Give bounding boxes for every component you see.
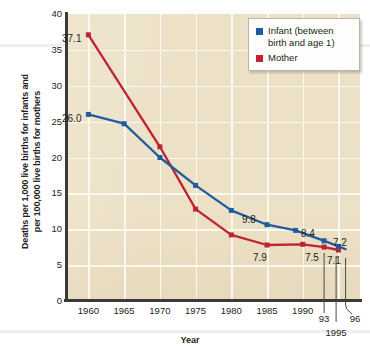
value-label-8-4: 8.4 xyxy=(301,228,315,239)
value-label-37-1: 37.1 xyxy=(62,33,81,44)
x-callout-label-1995: 1995 xyxy=(319,327,353,338)
x-tick-label-1980: 1980 xyxy=(211,305,251,316)
value-label-7-9: 7.9 xyxy=(253,252,267,263)
y-tick-label-35: 35 xyxy=(36,45,62,55)
y-axis-line xyxy=(65,12,68,301)
legend-label-mother: Mother xyxy=(268,52,298,64)
x-axis-line xyxy=(64,299,362,302)
y-tick-label-25: 25 xyxy=(36,117,62,127)
y-tick-label-10: 10 xyxy=(36,224,62,234)
value-label-7-5: 7.5 xyxy=(305,252,319,263)
y-tick-label-30: 30 xyxy=(36,81,62,91)
y-tick-label-0: 0 xyxy=(36,296,62,306)
value-label-26-0: 26.0 xyxy=(62,113,81,124)
legend-item-mother[interactable]: Mother xyxy=(256,52,354,64)
value-label-9-8: 9.8 xyxy=(242,214,256,225)
y-tick-label-40: 40 xyxy=(36,9,62,19)
value-label-7-2: 7.2 xyxy=(333,237,347,248)
y-tick-label-15: 15 xyxy=(36,188,62,198)
y-tick-label-20: 20 xyxy=(36,153,62,163)
y-axis-title-line-1: Deaths per 1,000 live births for infants… xyxy=(20,57,32,267)
x-axis-title: Year xyxy=(60,335,320,345)
y-tick-label-5: 5 xyxy=(36,260,62,270)
legend-item-infant[interactable]: Infant (between birth and age 1) xyxy=(256,25,354,48)
x-tick-label-1965: 1965 xyxy=(104,305,144,316)
x-tick-label-1970: 1970 xyxy=(140,305,180,316)
x-tick-label-1960: 1960 xyxy=(68,305,108,316)
chart-legend: Infant (between birth and age 1) Mother xyxy=(248,18,360,71)
legend-swatch-infant-icon xyxy=(256,28,263,35)
legend-swatch-mother-icon xyxy=(256,55,263,62)
chart-figure: Deaths per 1,000 live births for infants… xyxy=(0,0,370,358)
x-callout-label-96: 96 xyxy=(338,313,370,324)
legend-label-infant: Infant (between birth and age 1) xyxy=(268,25,335,48)
page-scan-band xyxy=(0,330,370,333)
legend-label-infant-line-2: birth and age 1) xyxy=(268,37,335,48)
x-tick-label-1985: 1985 xyxy=(247,305,287,316)
x-callout-label-93: 93 xyxy=(307,313,341,324)
value-label-7-1: 7.1 xyxy=(327,255,341,266)
x-tick-label-1975: 1975 xyxy=(176,305,216,316)
legend-label-infant-line-1: Infant (between xyxy=(268,25,334,36)
